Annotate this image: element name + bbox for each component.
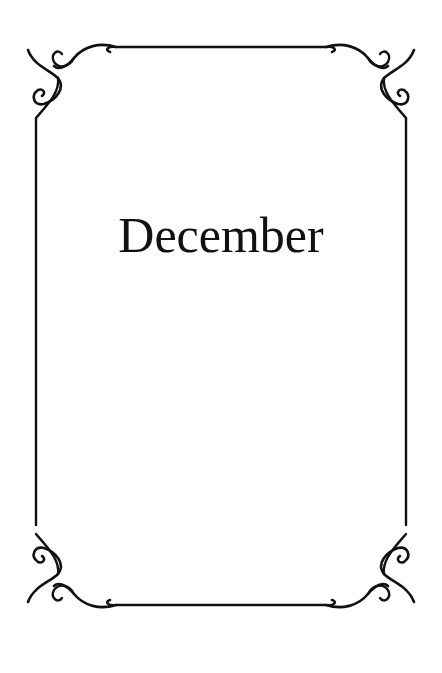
corner-scroll-bottom-right-icon [326,534,414,607]
corner-scroll-bottom-left-icon [28,534,116,607]
page-title: December [0,206,442,264]
ornamental-frame [0,0,442,673]
corner-scroll-top-left-icon [28,45,116,118]
corner-scroll-top-right-icon [326,45,414,118]
